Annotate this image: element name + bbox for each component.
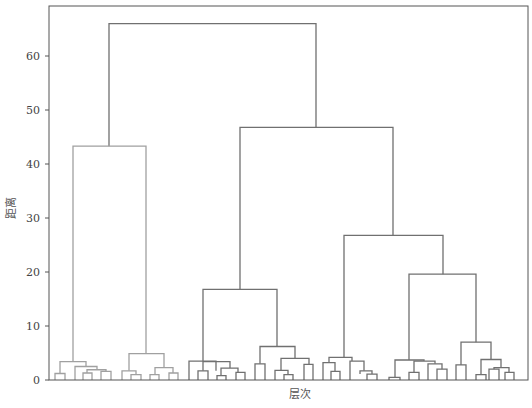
- dendrogram-link: [329, 357, 352, 362]
- dendrogram-link: [437, 369, 447, 380]
- y-tick-label: 20: [26, 266, 40, 279]
- dendrogram-link: [198, 371, 208, 380]
- dendrogram-link: [240, 127, 393, 289]
- dendrogram-link: [260, 347, 295, 364]
- dendrogram-link: [367, 374, 377, 380]
- y-tick-label: 60: [26, 50, 40, 63]
- dendrogram-link: [505, 372, 514, 380]
- dendrogram-link: [203, 289, 277, 361]
- dendrogram-link: [409, 372, 419, 380]
- dendrogram-link: [83, 373, 92, 380]
- dendrogram-link: [131, 375, 141, 380]
- dendrogram-chart: 0102030405060 层次 距离: [0, 0, 532, 408]
- y-axis-title: 距离: [4, 197, 18, 219]
- dendrogram-link: [60, 362, 86, 374]
- y-tick-label: 0: [33, 374, 40, 387]
- dendrogram-links: [55, 24, 514, 380]
- dendrogram-link: [122, 371, 136, 380]
- x-axis-title: 层次: [289, 387, 311, 401]
- dendrogram-link: [101, 371, 111, 380]
- dendrogram-link: [414, 361, 435, 372]
- dendrogram-link: [489, 369, 499, 380]
- dendrogram-link: [456, 365, 466, 380]
- y-axis: 0102030405060: [26, 50, 49, 387]
- dendrogram-link: [255, 364, 265, 380]
- dendrogram-link: [409, 274, 476, 360]
- dendrogram-link: [236, 372, 245, 380]
- dendrogram-link: [494, 368, 509, 373]
- dendrogram-link: [476, 375, 486, 380]
- y-tick-label: 30: [26, 212, 40, 225]
- dendrogram-link: [304, 364, 313, 380]
- dendrogram-link: [284, 375, 293, 380]
- dendrogram-link: [428, 364, 442, 380]
- dendrogram-link: [169, 373, 178, 380]
- dendrogram-link: [344, 235, 443, 357]
- y-tick-label: 40: [26, 158, 40, 171]
- y-tick-label: 10: [26, 320, 40, 333]
- y-tick-label: 50: [26, 104, 40, 117]
- dendrogram-link: [55, 374, 65, 380]
- dendrogram-link: [461, 342, 491, 365]
- dendrogram-link: [217, 376, 226, 380]
- plot-frame: [49, 6, 528, 380]
- dendrogram-link: [73, 146, 146, 361]
- dendrogram-link: [331, 371, 340, 380]
- dendrogram-link: [150, 375, 159, 380]
